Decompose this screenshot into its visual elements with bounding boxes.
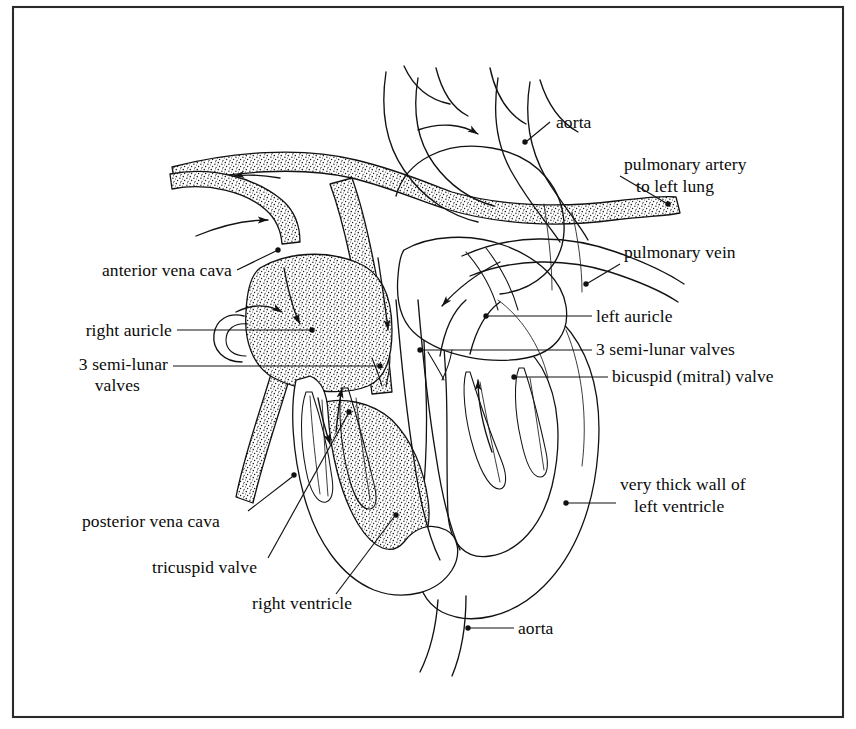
- leader-endpoint-semi-lunar-valves-left: [377, 363, 382, 368]
- left-auricle-chamber: [398, 237, 567, 360]
- arrow-vena-cava-inflow: [196, 220, 268, 236]
- right-auricle-appendage-inner: [226, 324, 248, 356]
- leader-endpoint-pulmonary-vein: [583, 281, 588, 286]
- label-text-very-thick-wall-left-ventricle-line2: left ventricle: [634, 496, 724, 516]
- aortic-branch-left-b: [436, 68, 468, 116]
- label-text-aorta-bottom: aorta: [518, 618, 554, 638]
- label-posterior-vena-cava: posterior vena cava: [82, 472, 297, 531]
- label-text-pulmonary-artery-line2: to left lung: [636, 176, 714, 196]
- aortic-branch-left: [404, 66, 450, 104]
- label-text-anterior-vena-cava: anterior vena cava: [102, 260, 232, 280]
- leader-endpoint-tricuspid-valve: [346, 409, 351, 414]
- label-aorta-bottom: aorta: [465, 618, 553, 638]
- label-text-very-thick-wall-left-ventricle-line1: very thick wall of: [620, 474, 746, 494]
- descending-aorta-left: [420, 600, 438, 672]
- leader-endpoint-left-auricle: [483, 313, 488, 318]
- leader-endpoint-aorta-bottom: [465, 625, 470, 630]
- label-text-pulmonary-artery-line1: pulmonary artery: [624, 154, 747, 174]
- leader-endpoint-very-thick-wall-left-ventricle: [563, 500, 568, 505]
- label-aorta-top: aorta: [522, 112, 591, 145]
- label-text-pulmonary-vein: pulmonary vein: [624, 242, 736, 262]
- label-text-semi-lunar-valves-left-line1: 3 semi-lunar: [79, 354, 168, 374]
- right-auricle-chamber: [246, 254, 392, 391]
- label-text-left-auricle: left auricle: [596, 306, 673, 326]
- label-text-aorta-top: aorta: [556, 112, 592, 132]
- arrow-aortic-arch: [418, 125, 478, 134]
- leader-endpoint-pulmonary-artery: [665, 201, 670, 206]
- leader-endpoint-aorta-top: [522, 139, 527, 144]
- label-text-semi-lunar-valves-right: 3 semi-lunar valves: [596, 339, 735, 359]
- heart-diagram-svg: aortapulmonary arteryto left lungpulmona…: [0, 0, 856, 729]
- leader-endpoint-anterior-vena-cava: [275, 247, 280, 252]
- leader-endpoint-right-ventricle: [393, 512, 398, 517]
- leader-endpoint-right-auricle: [309, 327, 314, 332]
- label-text-right-auricle: right auricle: [86, 320, 172, 340]
- leader-endpoint-posterior-vena-cava: [291, 472, 296, 477]
- leader-endpoint-semi-lunar-valves-right: [417, 347, 422, 352]
- leader-line-aorta-top: [527, 122, 550, 141]
- label-text-posterior-vena-cava: posterior vena cava: [82, 511, 220, 531]
- label-text-bicuspid-mitral-valve: bicuspid (mitral) valve: [612, 366, 774, 386]
- label-text-semi-lunar-valves-left-line2: valves: [95, 375, 140, 395]
- anterior-vena-cava-vessel: [170, 172, 300, 244]
- label-text-right-ventricle: right ventricle: [252, 593, 352, 613]
- heart-diagram-figure: aortapulmonary arteryto left lungpulmona…: [0, 0, 856, 729]
- label-text-tricuspid-valve: tricuspid valve: [152, 557, 257, 577]
- leader-endpoint-bicuspid-mitral-valve: [511, 374, 516, 379]
